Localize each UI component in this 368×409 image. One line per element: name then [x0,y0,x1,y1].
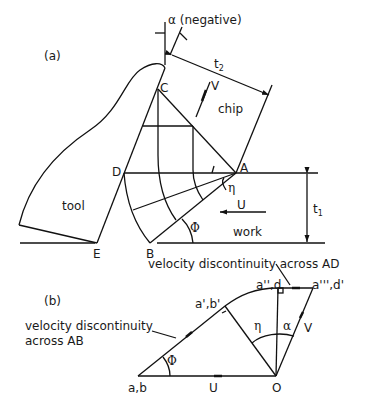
u-label-b: U [209,382,218,394]
point-a3d1-label: a''',d' [312,279,344,291]
annotation-ab-line2: across AB [25,335,84,347]
t2-label: t2 [214,58,224,73]
phi-label-b: Φ [167,355,177,367]
work-label: work [233,226,262,238]
slip-line-inner [193,126,203,200]
vector-ab-discontinuity [138,306,225,376]
point-ab-label: a,b [128,382,147,394]
point-a1b1-label: a',b' [195,298,220,310]
t1-label: t1 [313,203,323,218]
rake-extension [170,27,182,55]
line-o-a1 [225,306,276,376]
part-a-label: (a) [44,50,61,62]
eta-alpha-arc [252,334,294,343]
annotation-ab-line1: velocity discontinuity [25,320,153,332]
tool-rake-face [97,68,165,243]
leader-ab [152,331,176,338]
eta-label-b: η [254,320,261,332]
angle-mark [212,166,214,173]
phi-label-a: Φ [190,222,200,234]
chip-label: chip [218,103,243,115]
alpha-tick-right [180,33,187,40]
ab-arrowhead [186,332,192,337]
v-label-b: V [304,322,312,334]
point-c-label: C [160,82,168,94]
point-a2d-label: a'',d [256,279,281,291]
u-label-a: U [237,199,246,211]
v-arrow-head [202,90,206,101]
chip-outer-face [236,85,272,173]
line-o-a2 [276,288,278,376]
slip-line-radial [133,173,236,210]
point-d-label: D [112,166,121,178]
alpha-negative-label: α (negative) [168,14,242,26]
tool-outline [19,64,165,225]
part-b-label: (b) [44,295,61,307]
v-arrowhead-b [300,312,303,318]
annotation-ad: velocity discontinuity across AD [148,258,339,270]
right-angle-mark-2 [222,311,226,313]
point-e-label: E [93,248,101,260]
eta-arc [223,178,226,190]
point-a-label: A [240,162,248,174]
eta-label: η [228,182,235,194]
v-label: V [211,80,219,92]
tool-label: tool [62,200,85,212]
point-o-label: O [272,382,281,394]
tool-flank [19,225,97,243]
alpha-label-b: α [283,320,291,332]
